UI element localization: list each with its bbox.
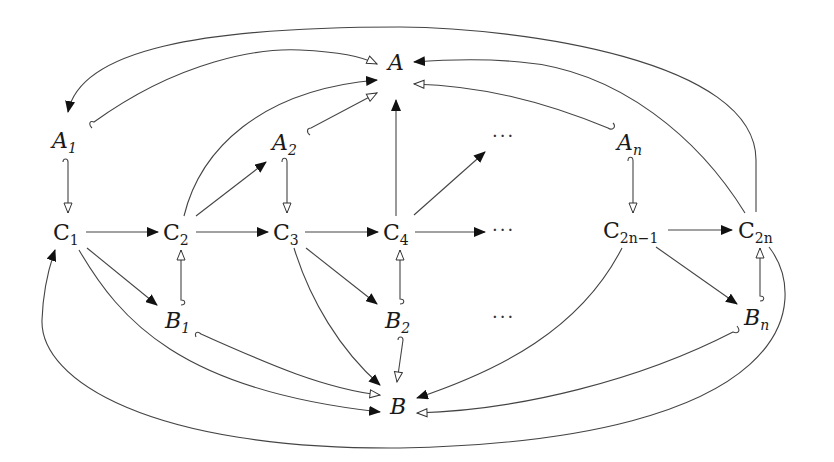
edge-c2n-to-c1 (42, 247, 785, 448)
node-c1: C1 (53, 220, 79, 248)
node-b2: B2 (384, 308, 410, 336)
node-an: An (615, 130, 642, 158)
edge-an-to-a (414, 84, 614, 129)
node-b: B (389, 394, 406, 419)
edge-c1-to-b1 (87, 248, 157, 305)
edge-c3-to-b (294, 248, 380, 385)
edge-b2-to-c4 (400, 250, 404, 304)
edge-an-to-c2n1 (628, 157, 633, 213)
node-c4: C4 (383, 220, 409, 248)
edge-bn-to-b (417, 326, 739, 413)
node-a: A (386, 50, 404, 75)
ellipsis-middle: ··· (492, 219, 515, 240)
edge-c4-to-upper-dots (414, 152, 485, 215)
edge-b1-to-b (195, 332, 380, 395)
edge-c2n-to-a1 (68, 27, 756, 212)
edge-c1-to-b (79, 250, 380, 412)
edge-b1-to-c2 (181, 250, 185, 305)
node-bn: Bn (743, 305, 769, 333)
node-b1: B1 (164, 308, 190, 336)
ellipsis-lower: ··· (492, 306, 515, 327)
edge-a2-to-c3 (282, 158, 287, 213)
node-c2n-minus-1: C2n−1 (603, 218, 658, 246)
node-a2: A2 (270, 130, 297, 158)
node-c2n: C2n (738, 218, 773, 246)
edge-c2-to-a2 (196, 162, 266, 216)
edge-c2n1-to-b (417, 248, 622, 398)
edge-c2n-to-a (414, 60, 745, 213)
edge-c2n1-to-bn (656, 247, 737, 304)
edge-b2-to-b (397, 337, 403, 382)
node-a1: A1 (50, 128, 77, 156)
edge-a1-to-c1 (63, 159, 68, 213)
node-c3: C3 (273, 220, 299, 248)
node-c2: C2 (163, 220, 189, 248)
edge-a2-to-a (307, 93, 377, 135)
commutative-diagram: A A1 A2 An C1 C2 C3 C4 C2n−1 C2n B1 B2 B… (0, 0, 834, 462)
ellipsis-upper: ··· (492, 125, 515, 146)
edge-bn-to-c2n (760, 248, 764, 301)
edge-c3-to-b2 (306, 248, 377, 304)
